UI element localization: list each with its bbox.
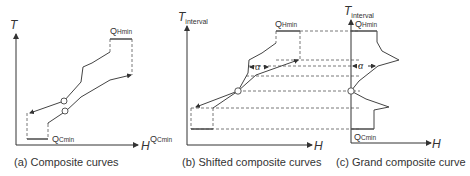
q-hmin-label: QHmin [110, 26, 133, 36]
caption-c: (c) Grand composite curve [336, 156, 466, 168]
q-cmin-label: QCmin [354, 132, 377, 142]
q-hmin-label: QHmin [275, 19, 298, 29]
caption-b: (b) Shifted composite curves [182, 156, 322, 168]
pinch-point-hot [61, 98, 67, 104]
t-interval-axis-label: Tinterval [178, 10, 208, 25]
panel-shifted-composite-curves: Tinterval H α QHmin QCmin (b) Shifted co… [150, 10, 360, 168]
caption-a: (a) Composite curves [14, 156, 119, 168]
t-interval-axis-label: Tinterval [344, 4, 374, 19]
pinch-point-cold [62, 108, 68, 114]
pinch-analysis-diagram: T H QHmin QCmin (a) Composite curves Tin… [0, 0, 470, 176]
pinch-point [235, 88, 241, 94]
hot-composite-curve [30, 52, 110, 113]
q-hmin-label: QHmin [355, 19, 378, 29]
grand-composite-curve [351, 31, 399, 129]
panel-grand-composite-curve: Tinterval H α QHmin QCmin (c) Grand comp… [336, 4, 466, 168]
q-cmin-label: QCmin [150, 134, 173, 144]
cold-composite-curve [48, 75, 131, 124]
h-axis-label: H [432, 137, 441, 151]
shifted-hot-curve [196, 43, 276, 107]
panel-composite-curves: T H QHmin QCmin (a) Composite curves [10, 18, 150, 168]
q-cmin-label: QCmin [52, 134, 75, 144]
h-axis-label: H [141, 139, 150, 153]
t-axis-label: T [10, 18, 19, 32]
alpha-label: α [358, 61, 364, 71]
alpha-label: α [255, 62, 261, 72]
h-axis-label: H [314, 139, 323, 153]
pinch-point [348, 88, 354, 94]
